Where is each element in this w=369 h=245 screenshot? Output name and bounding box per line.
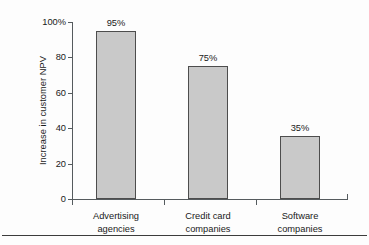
y-tick-label-0: 0 bbox=[61, 194, 66, 204]
x-category-line-2: companies bbox=[185, 223, 230, 236]
y-tick-mark-100 bbox=[68, 22, 72, 23]
y-axis-line bbox=[72, 22, 73, 199]
y-tick-mark-20 bbox=[68, 164, 72, 165]
y-tick-label-80: 80 bbox=[56, 52, 66, 62]
x-category-line-2: companies bbox=[278, 223, 323, 236]
bar-value-label-credit-card-companies: 75% bbox=[199, 53, 218, 64]
x-category-line-1: Credit card bbox=[185, 210, 230, 223]
bar-advertising-agencies bbox=[96, 31, 136, 199]
x-category-label-advertising-agencies: Advertising agencies bbox=[93, 210, 139, 235]
x-category-label-credit-card-companies: Credit card companies bbox=[185, 210, 230, 235]
bar-software-companies bbox=[280, 136, 320, 199]
bar-value-label-advertising-agencies: 95% bbox=[107, 18, 126, 29]
x-axis-line bbox=[72, 199, 348, 200]
footer-divider bbox=[2, 235, 367, 236]
x-axis-end-tick bbox=[347, 194, 348, 199]
bar-chart-figure: Increase in customer NPV 100% 80 60 40 2… bbox=[0, 0, 369, 245]
y-tick-label-100: 100% bbox=[42, 17, 66, 27]
bar-credit-card-companies bbox=[188, 66, 228, 199]
y-tick-label-60: 60 bbox=[56, 88, 66, 98]
plot-area: 100% 80 60 40 20 0 95% 7 bbox=[72, 22, 348, 199]
x-category-line-1: Advertising bbox=[93, 210, 139, 223]
y-axis-title: Increase in customer NPV bbox=[36, 22, 50, 199]
x-tick-mark-2 bbox=[256, 200, 257, 205]
y-tick-label-40: 40 bbox=[56, 123, 66, 133]
y-tick-mark-60 bbox=[68, 93, 72, 94]
x-tick-mark-1 bbox=[164, 200, 165, 205]
y-tick-label-20: 20 bbox=[56, 159, 66, 169]
x-tick-mark-0 bbox=[72, 200, 73, 205]
y-tick-mark-80 bbox=[68, 57, 72, 58]
x-category-line-1: Software bbox=[278, 210, 323, 223]
x-category-label-software-companies: Software companies bbox=[278, 210, 323, 235]
y-tick-mark-40 bbox=[68, 128, 72, 129]
bar-value-label-software-companies: 35% bbox=[291, 123, 310, 134]
x-category-line-2: agencies bbox=[93, 223, 139, 236]
